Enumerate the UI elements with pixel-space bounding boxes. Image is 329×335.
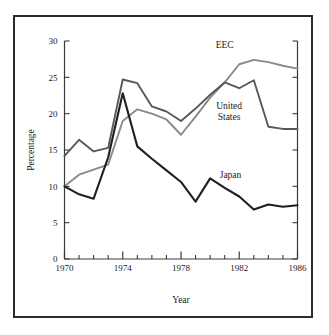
x-axis: 19701974197819821986: [56, 252, 308, 274]
figure-canvas: 05101520253019701974197819821986YearPerc…: [0, 0, 329, 335]
y-axis-title-group: Percentage: [26, 129, 36, 171]
series-label-line: United: [216, 101, 242, 111]
x-tick-label: 1974: [114, 263, 133, 273]
series-eec: [65, 60, 298, 186]
y-tick-label: 5: [53, 218, 58, 228]
y-axis-title: Percentage: [26, 129, 36, 171]
x-axis-title: Year: [172, 295, 190, 305]
line-chart: 05101520253019701974197819821986YearPerc…: [0, 0, 329, 335]
x-tick-label: 1986: [289, 263, 308, 273]
series-line: [65, 80, 298, 156]
series-label-united-states: UnitedStates: [216, 101, 242, 122]
series-united-states: [65, 80, 298, 156]
series-label-japan: Japan: [220, 170, 242, 180]
x-tick-label: 1982: [230, 263, 248, 273]
y-axis: 051015202530: [49, 36, 298, 264]
x-tick-label: 1970: [56, 263, 75, 273]
series-label-line: States: [218, 112, 241, 122]
y-tick-label: 10: [49, 182, 59, 192]
y-tick-label: 30: [49, 36, 59, 46]
series-label-eec: EEC: [216, 40, 234, 50]
y-tick-label: 25: [49, 73, 59, 83]
series-line: [65, 60, 298, 186]
y-tick-label: 15: [49, 145, 59, 155]
y-tick-label: 20: [49, 109, 59, 119]
x-tick-label: 1978: [172, 263, 191, 273]
